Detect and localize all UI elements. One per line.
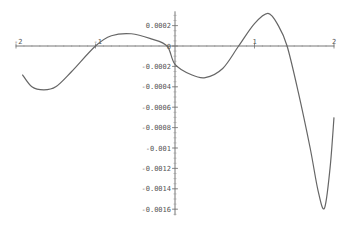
x-tick-label: 2 xyxy=(332,38,336,46)
y-tick-label: -0.0008 xyxy=(141,124,171,132)
x-tick-label: -2 xyxy=(14,38,22,46)
y-tick-label: -0.0012 xyxy=(141,165,171,173)
data-curve xyxy=(22,13,334,209)
y-tick-label: -0.0014 xyxy=(141,185,171,193)
y-tick-label: -0.0002 xyxy=(141,63,171,71)
y-tick-label: -0.0006 xyxy=(141,104,171,112)
x-tick-label: 1 xyxy=(253,38,257,46)
y-tick-label: -0.001 xyxy=(146,145,171,153)
y-tick-label: 0.0002 xyxy=(146,22,171,30)
y-tick-label: -0.0004 xyxy=(141,83,171,91)
line-chart: -2-1120.00020-0.0002-0.0004-0.0006-0.000… xyxy=(0,0,354,225)
y-tick-label: -0.0016 xyxy=(141,206,171,214)
